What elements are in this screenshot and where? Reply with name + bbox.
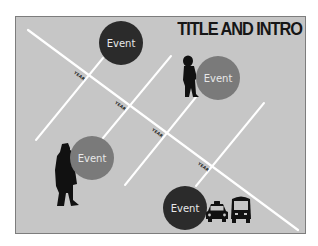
event-circle-1: Event xyxy=(99,21,143,65)
event-label-1: Event xyxy=(107,38,136,49)
infographic-title: TITLE AND INTRO xyxy=(177,18,302,40)
branch-line-1 xyxy=(36,58,103,140)
event-circle-4: Event xyxy=(163,186,207,230)
taxi-icon xyxy=(206,201,228,222)
event-circle-2: Event xyxy=(196,56,240,100)
branch-line-2 xyxy=(103,56,171,138)
event-label-2: Event xyxy=(204,73,233,84)
bus-icon xyxy=(231,197,251,224)
event-label-4: Event xyxy=(171,203,200,214)
event-label-3: Event xyxy=(78,153,107,164)
event-circle-3: Event xyxy=(70,136,114,180)
branch-line-4 xyxy=(196,103,264,186)
main-timeline-line xyxy=(28,30,298,230)
